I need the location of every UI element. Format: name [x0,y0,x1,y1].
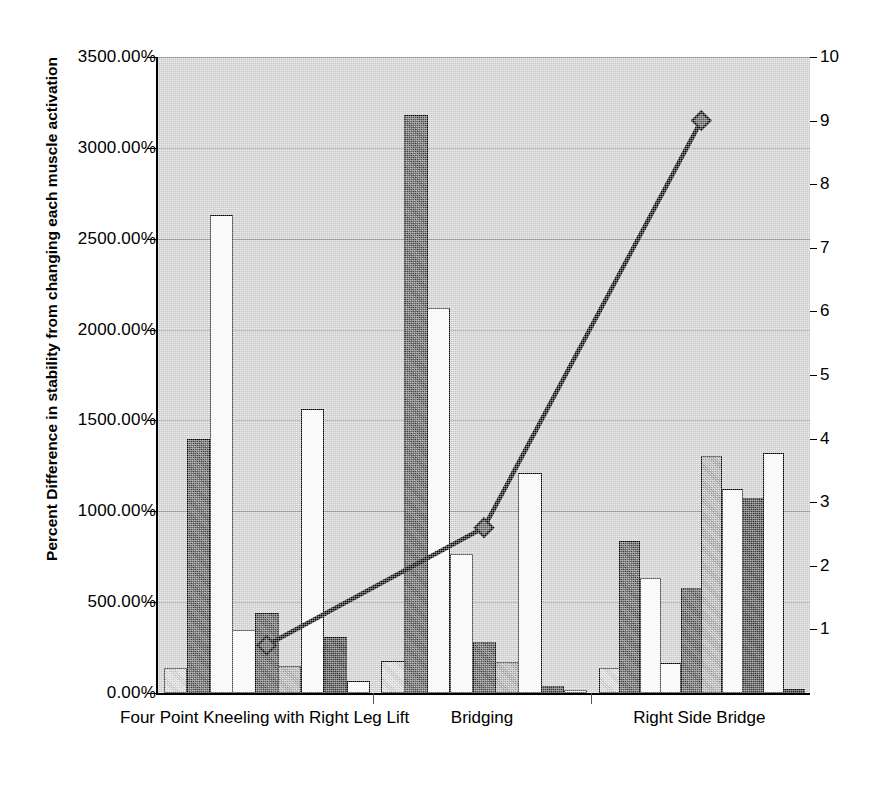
y-tick-label-right: 2 [820,557,829,574]
y-axis-title: Percent Difference in stability from cha… [43,29,61,589]
y-tick-label-right: 6 [820,302,829,319]
plot-area [156,57,810,695]
line-series-marker [475,519,493,537]
bar [742,498,763,693]
gridline [158,420,810,421]
gridline [158,239,810,240]
y-tick-label-right: 8 [820,175,829,192]
bar [404,115,427,693]
gridline [158,330,810,331]
y-tick-label-left: 2500.00% [78,230,156,247]
y-tick-label-right: 1 [820,620,829,637]
y-tick-label-left: 3000.00% [78,139,156,156]
bar [427,308,450,693]
bar [301,409,324,693]
chart-figure: Percent Difference in stability from cha… [0,0,878,797]
y-tick-label-left: 0.00% [107,684,156,701]
y-tick-label-left: 500.00% [87,593,156,610]
bar [763,453,784,693]
bar [164,668,187,693]
bar [564,690,587,693]
bar [701,456,722,693]
y-tick-label-right: 10 [820,48,839,65]
bar [541,686,564,693]
bar [518,473,541,693]
bar [210,215,233,693]
y-tick-label-right: 5 [820,366,829,383]
gridline [158,57,810,58]
bar [783,689,804,693]
x-axis-group-tick [373,693,374,704]
x-axis-category-label: Bridging [382,706,582,729]
bar [495,662,518,693]
y-tick-label-right: 4 [820,430,829,447]
bar [255,613,278,693]
x-axis-category-label: Four Point Kneeling with Right Leg Lift [115,706,415,729]
bar [660,663,681,693]
bar [347,681,370,693]
y-tick-label-left: 1000.00% [78,502,156,519]
bar [324,637,347,693]
bar [619,541,640,693]
bar [232,630,255,693]
y-tick-label-right: 9 [820,112,829,129]
x-axis-group-tick [591,693,592,704]
bar [187,439,210,693]
y-tick-label-left: 1500.00% [78,411,156,428]
bar [681,588,702,693]
bar [599,668,620,693]
line-series-marker [692,112,710,130]
y-tick-label-left: 2000.00% [78,321,156,338]
y-tick-label-right: 3 [820,493,829,510]
bar [381,661,404,693]
bar [278,666,301,693]
y-tick-label-left: 3500.00% [78,48,156,65]
gridline [158,148,810,149]
bar [473,642,496,693]
y-tick-label-right: 7 [820,239,829,256]
bar [722,489,743,693]
bar [450,554,473,693]
x-axis-category-label: Right Side Bridge [589,706,809,729]
bar [640,578,661,693]
